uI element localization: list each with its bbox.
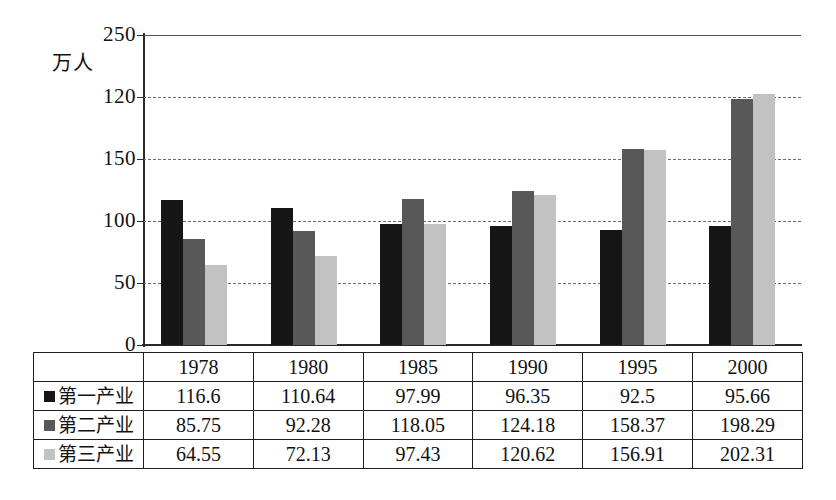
bar-group xyxy=(253,35,363,345)
table-column-header: 1985 xyxy=(363,353,473,382)
bar-group xyxy=(362,35,472,345)
series-legend-label: 第一产业 xyxy=(34,382,144,411)
table-cell: 97.43 xyxy=(363,440,473,469)
series-name: 第三产业 xyxy=(58,443,134,465)
bar xyxy=(402,199,424,345)
table-column-header: 1995 xyxy=(583,353,693,382)
table-cell: 116.6 xyxy=(144,382,254,411)
table-cell: 92.5 xyxy=(583,382,693,411)
bar-group xyxy=(143,35,253,345)
legend-swatch-icon xyxy=(44,420,55,431)
y-axis-tick-label: 250 xyxy=(74,24,136,45)
table-cell: 92.28 xyxy=(253,411,363,440)
table-cell: 120.62 xyxy=(473,440,583,469)
bar xyxy=(600,230,622,345)
bar xyxy=(622,149,644,345)
series-name: 第一产业 xyxy=(58,385,134,407)
table-column-header: 2000 xyxy=(692,353,802,382)
bar-group xyxy=(472,35,582,345)
bar xyxy=(161,200,183,345)
table-cell: 85.75 xyxy=(144,411,254,440)
series-name: 第二产业 xyxy=(58,414,134,436)
table-column-header: 1978 xyxy=(144,353,254,382)
table-cell: 64.55 xyxy=(144,440,254,469)
series-legend-label: 第二产业 xyxy=(34,411,144,440)
bar-group xyxy=(582,35,692,345)
table-cell: 97.99 xyxy=(363,382,473,411)
table-column-header: 1990 xyxy=(473,353,583,382)
table-corner-cell xyxy=(34,353,144,382)
table-cell: 118.05 xyxy=(363,411,473,440)
bar xyxy=(753,94,775,345)
series-legend-label: 第三产业 xyxy=(34,440,144,469)
table-cell: 95.66 xyxy=(692,382,802,411)
table-cell: 158.37 xyxy=(583,411,693,440)
bar xyxy=(315,256,337,345)
bar xyxy=(424,224,446,345)
table-cell: 96.35 xyxy=(473,382,583,411)
plot-area xyxy=(143,35,801,345)
y-axis-tick-label: 100 xyxy=(74,210,136,231)
table-cell: 198.29 xyxy=(692,411,802,440)
bar xyxy=(271,208,293,345)
y-axis-tick-label: 150 xyxy=(74,148,136,169)
bar xyxy=(512,191,534,345)
bar xyxy=(380,224,402,346)
legend-swatch-icon xyxy=(44,391,55,402)
bar xyxy=(183,239,205,345)
y-axis-tick xyxy=(137,345,144,346)
legend-swatch-icon xyxy=(44,449,55,460)
bar-group xyxy=(691,35,801,345)
data-table: 197819801985199019952000 第一产业116.6110.64… xyxy=(33,352,803,469)
table-row: 第二产业85.7592.28118.05124.18158.37198.29 xyxy=(34,411,803,440)
bar xyxy=(709,226,731,345)
bar xyxy=(490,226,512,345)
y-axis-tick-labels: 250120150100500 xyxy=(72,35,136,345)
table-header-row: 197819801985199019952000 xyxy=(34,353,803,382)
table-cell: 110.64 xyxy=(253,382,363,411)
table-cell: 124.18 xyxy=(473,411,583,440)
table-column-header: 1980 xyxy=(253,353,363,382)
table-row: 第一产业116.6110.6497.9996.3592.595.66 xyxy=(34,382,803,411)
bar xyxy=(293,231,315,345)
table-body: 第一产业116.6110.6497.9996.3592.595.66第二产业85… xyxy=(34,382,803,469)
bar xyxy=(644,150,666,345)
statistics-figure: 万人 250120150100500 197819801985199019952… xyxy=(0,0,836,500)
y-axis-tick-label: 120 xyxy=(74,86,136,107)
bar xyxy=(534,195,556,345)
table-cell: 202.31 xyxy=(692,440,802,469)
bar xyxy=(731,99,753,345)
table-cell: 72.13 xyxy=(253,440,363,469)
y-axis-tick-label: 50 xyxy=(74,272,136,293)
table-cell: 156.91 xyxy=(583,440,693,469)
table-row: 第三产业64.5572.1397.43120.62156.91202.31 xyxy=(34,440,803,469)
bar xyxy=(205,265,227,345)
